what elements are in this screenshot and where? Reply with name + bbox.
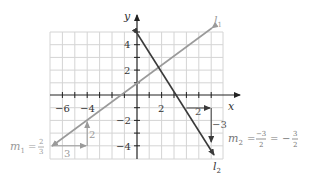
- line-l1: [52, 28, 212, 146]
- x-tick-label: 2: [158, 103, 164, 114]
- m1-annotation: m1 = 2 3: [10, 138, 44, 156]
- svg-text:−: −: [282, 133, 290, 144]
- l2-run-label: 2: [195, 106, 201, 117]
- l1-rise-label: 2: [89, 129, 95, 140]
- svg-text:m1: m1: [10, 140, 25, 155]
- y-tick-label: −4: [116, 141, 131, 152]
- l2-rise-label: −3: [212, 119, 227, 130]
- x-tick-label: −4: [80, 103, 95, 114]
- y-tick-label: 4: [124, 39, 130, 50]
- svg-text:m2: m2: [228, 132, 243, 147]
- y-axis-label: y: [123, 10, 131, 23]
- x-tick-label: −6: [55, 103, 70, 114]
- y-tick-label: 2: [124, 65, 130, 76]
- y-tick-label: −2: [116, 115, 131, 126]
- svg-text:=: =: [28, 141, 36, 152]
- svg-text:3: 3: [293, 130, 297, 138]
- svg-text:−3: −3: [256, 130, 266, 138]
- l2-label: l2: [213, 160, 221, 175]
- svg-text:3: 3: [39, 148, 43, 156]
- svg-text:=: =: [247, 133, 255, 144]
- svg-text:2: 2: [259, 141, 263, 149]
- x-axis-label: x: [228, 100, 235, 113]
- svg-text:2: 2: [293, 141, 297, 149]
- coordinate-diagram: x y −6 −4 2 4 2 −2 −4 l1 3 2 m1 = 2 3 l2…: [0, 0, 313, 183]
- m2-annotation: m2 = −3 2 = − 3 2: [228, 130, 298, 149]
- l1-label: l1: [214, 14, 222, 29]
- svg-text:2: 2: [39, 138, 43, 146]
- svg-text:=: =: [270, 133, 278, 144]
- l1-run-label: 3: [64, 148, 70, 159]
